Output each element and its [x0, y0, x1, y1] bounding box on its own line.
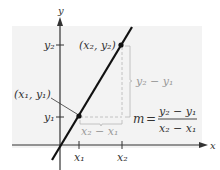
formula-denominator: x₂ − x₁: [159, 122, 196, 135]
formula-equals: =: [146, 112, 156, 126]
y-axis-label: y: [57, 5, 64, 16]
slope-diagram: y x y₂ y₁ x₁ x₂ (x₂, y₂) (x₁, y₁) y₂ − y…: [0, 0, 220, 170]
x2-tick-label: x₂: [117, 151, 128, 164]
formula-numerator: y₂ − y₁: [158, 105, 196, 118]
run-label: x₂ − x₁: [81, 125, 118, 138]
x-axis-label: x: [210, 140, 216, 151]
y1-tick-label: y₁: [43, 111, 55, 124]
point-2-label: (x₂, y₂): [79, 39, 116, 52]
point-1-label: (x₁, y₁): [14, 88, 51, 101]
y-axis-arrow-icon: [57, 17, 63, 26]
point-1-marker: [76, 113, 81, 118]
formula-lhs: m: [133, 112, 144, 126]
rise-label: y₂ − y₁: [135, 75, 173, 88]
x1-tick-label: x₁: [74, 151, 85, 164]
point-2-marker: [118, 42, 123, 47]
y2-tick-label: y₂: [43, 39, 55, 52]
x-axis-arrow-icon: [199, 142, 208, 148]
